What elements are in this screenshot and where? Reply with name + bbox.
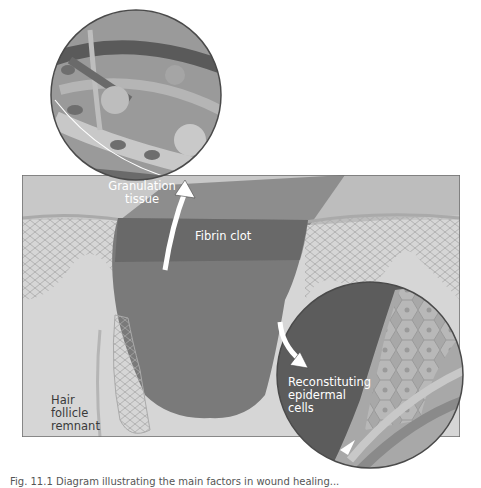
granulation-tissue-label: Granulation tissue xyxy=(106,180,178,206)
fibrin-clot-label: Fibrin clot xyxy=(195,230,251,243)
label-line: tissue xyxy=(106,193,178,206)
granulation-tissue-inset xyxy=(50,10,230,190)
wound-healing-diagram: Granulation tissue Fibrin clot Hair foll… xyxy=(0,0,481,488)
reconstituting-epidermal-cells-label: Reconstituting epidermal cells xyxy=(288,376,371,415)
label-line: remnant xyxy=(51,420,100,433)
label-line: cells xyxy=(288,402,371,415)
hair-follicle-remnant-label: Hair follicle remnant xyxy=(51,394,100,433)
figure-caption: Fig. 11.1 Diagram illustrating the main … xyxy=(10,476,480,487)
